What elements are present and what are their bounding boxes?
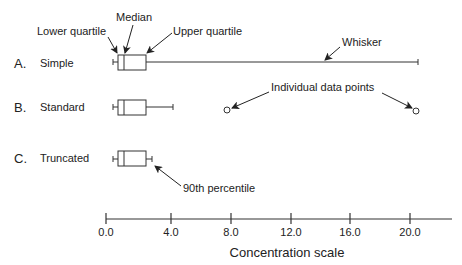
- label-90th-percentile: 90th percentile: [183, 182, 255, 194]
- outlier-point: [413, 108, 419, 114]
- row-b-letter: B.: [14, 100, 26, 115]
- boxplot-b: [113, 100, 419, 115]
- row-a-name: Simple: [40, 57, 74, 69]
- label-median: Median: [116, 11, 152, 23]
- tick-label: 4.0: [163, 226, 178, 238]
- boxplot-a: [113, 55, 418, 70]
- arrow-median: [125, 25, 133, 53]
- label-upper-quartile: Upper quartile: [173, 25, 242, 37]
- arrow-lower-quartile: [108, 37, 117, 53]
- row-c-name: Truncated: [40, 152, 89, 164]
- tick-label: 12.0: [280, 226, 301, 238]
- label-lower-quartile: Lower quartile: [37, 25, 106, 37]
- arrow-point-left: [232, 92, 269, 108]
- tick-label: 8.0: [223, 226, 238, 238]
- boxplot-c: [113, 151, 152, 166]
- row-b-name: Standard: [40, 101, 85, 113]
- label-individual-points: Individual data points: [271, 81, 375, 93]
- arrow-whisker: [325, 47, 340, 60]
- tick-label: 0.0: [98, 226, 113, 238]
- label-whisker: Whisker: [342, 36, 382, 48]
- arrow-upper-quartile: [147, 33, 172, 53]
- boxplot-diagram: A. Simple B. Standard C. Truncated Lower…: [0, 0, 462, 265]
- outlier-point: [224, 107, 230, 113]
- axis-label: Concentration scale: [230, 245, 345, 260]
- tick-label: 20.0: [399, 226, 420, 238]
- arrow-90th-percentile: [155, 166, 181, 186]
- row-c-letter: C.: [14, 151, 27, 166]
- x-axis: [106, 213, 452, 224]
- row-a-letter: A.: [14, 56, 26, 71]
- arrow-point-right: [382, 93, 412, 108]
- tick-label: 16.0: [339, 226, 360, 238]
